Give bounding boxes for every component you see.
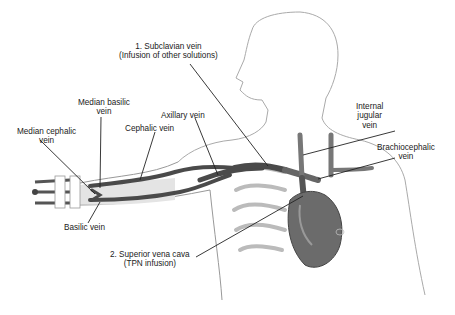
leader-cephalic (140, 132, 155, 180)
heart (288, 191, 342, 267)
label-line: 2. Superior vena cava (110, 250, 190, 259)
label-internal-jugular-vein: Internal jugular vein (356, 102, 383, 130)
rib-cage (234, 167, 285, 250)
label-cephalic-vein: Cephalic vein (125, 124, 174, 133)
label-superior-vena-cava: 2. Superior vena cava (TPN infusion) (110, 250, 190, 269)
label-brachiocephalic-vein: Brachiocephalic vein (377, 143, 435, 162)
label-line: Internal (356, 102, 383, 111)
leader-median-cephalic (40, 140, 95, 194)
label-axillary-vein: Axillary vein (161, 111, 205, 120)
label-line: Median cephalic (17, 127, 76, 136)
label-line: (TPN infusion) (110, 259, 190, 268)
catheter-hub (32, 189, 38, 195)
label-line: jugular (356, 111, 383, 120)
label-line: vein (377, 152, 435, 161)
internal-jugular-vein (300, 135, 302, 178)
leader-median-basilic (100, 117, 101, 188)
label-line: 1. Subclavian vein (119, 42, 218, 51)
tape-band-1 (55, 176, 65, 208)
anatomy-diagram: 1. Subclavian vein (Infusion of other so… (0, 0, 455, 315)
label-line: Basilic vein (64, 223, 105, 232)
label-median-cephalic-vein: Median cephalic vein (17, 127, 76, 146)
torso-outline (210, 190, 222, 300)
label-line: vein (78, 107, 130, 116)
label-basilic-vein: Basilic vein (64, 223, 105, 232)
label-median-basilic-vein: Median basilic vein (78, 98, 130, 117)
label-subclavian-vein: 1. Subclavian vein (Infusion of other so… (119, 42, 218, 61)
label-line: vein (17, 136, 76, 145)
tape-band-2 (70, 176, 80, 208)
label-line: Axillary vein (161, 111, 205, 120)
label-line: vein (356, 121, 383, 130)
label-line: Brachiocephalic (377, 143, 435, 152)
label-line: (Infusion of other solutions) (119, 51, 218, 60)
head-outline (236, 12, 338, 122)
label-line: Cephalic vein (125, 124, 174, 133)
label-line: Median basilic (78, 98, 130, 107)
